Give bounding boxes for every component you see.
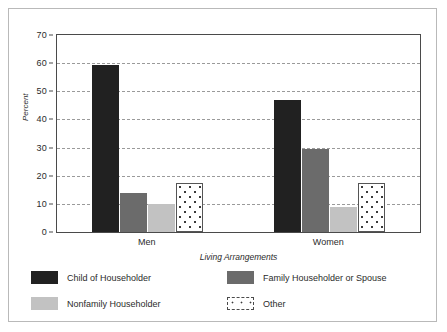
y-tick-label: 0 [42, 227, 47, 237]
y-tick-mark [49, 35, 53, 36]
chart-legend: Child of HouseholderFamily Householder o… [31, 271, 421, 317]
y-tick-label: 10 [37, 199, 47, 209]
x-tick-label: Men [138, 237, 156, 247]
legend-label: Nonfamily Householder [67, 299, 161, 309]
y-tick-label: 60 [37, 58, 47, 68]
y-tick-mark [49, 91, 53, 92]
y-tick-label: 50 [37, 86, 47, 96]
y-tick-mark [49, 203, 53, 204]
bar [176, 183, 203, 232]
chart-figure: 010203040506070 Percent MenWomen Living … [8, 8, 437, 322]
legend-item[interactable]: Family Householder or Spouse [227, 271, 387, 284]
legend-swatch-icon [31, 297, 58, 310]
legend-swatch-icon [227, 271, 254, 284]
y-tick-mark [49, 119, 53, 120]
plot-inner [57, 35, 420, 232]
legend-swatch-icon [227, 297, 254, 310]
y-tick-mark [49, 232, 53, 233]
y-tick-label: 30 [37, 143, 47, 153]
legend-label: Child of Householder [67, 273, 151, 283]
x-tick-label: Women [313, 237, 344, 247]
legend-label: Family Householder or Spouse [263, 273, 387, 283]
y-tick-mark [49, 147, 53, 148]
plot-area [56, 34, 421, 233]
legend-item[interactable]: Child of Householder [31, 271, 151, 284]
y-tick-label: 70 [37, 30, 47, 40]
bar [302, 149, 329, 232]
bar [358, 183, 385, 232]
y-tick-label: 20 [37, 171, 47, 181]
bar [274, 100, 301, 232]
bar [92, 65, 119, 232]
legend-label: Other [263, 299, 286, 309]
legend-swatch-icon [31, 271, 58, 284]
legend-item[interactable]: Nonfamily Householder [31, 297, 161, 310]
y-axis-title: Percent [21, 93, 30, 121]
x-axis-title: Living Arrangements [56, 252, 421, 262]
bar [120, 193, 147, 232]
bar [330, 207, 357, 232]
bar [148, 204, 175, 232]
y-axis: 010203040506070 [9, 34, 53, 233]
x-axis: MenWomen [56, 233, 421, 253]
y-tick-mark [49, 175, 53, 176]
y-tick-label: 40 [37, 114, 47, 124]
legend-item[interactable]: Other [227, 297, 286, 310]
y-tick-mark [49, 63, 53, 64]
